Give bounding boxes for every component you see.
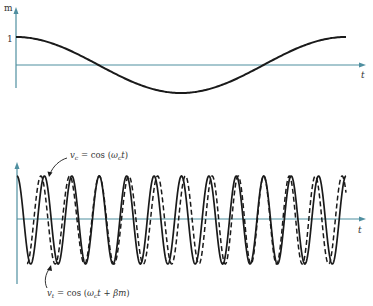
top-x-axis-label: t	[361, 70, 365, 80]
bottom-y-axis-arrow-icon	[15, 162, 20, 169]
carrier-leader-line	[50, 158, 67, 174]
modulated-equation-label: vt = cos (ωct + βm)	[47, 288, 130, 299]
phase-modulation-figure: m 1 t t vc = cos (ωct) vt = cos (ωct + β…	[0, 0, 373, 306]
bottom-x-axis-label: t	[358, 225, 362, 235]
carrier-leader-arrow-icon	[48, 172, 53, 178]
modulated-leader-arrow-icon	[47, 265, 52, 271]
tick-label-one: 1	[7, 34, 13, 44]
bottom-x-axis-arrow-icon	[359, 217, 366, 222]
figure-canvas: m 1 t t vc = cos (ωct) vt = cos (ωct + β…	[0, 0, 373, 306]
top-y-axis-label: m	[4, 3, 13, 13]
top-panel: m 1 t	[4, 3, 366, 93]
modulated-leader-line	[45, 268, 50, 288]
bottom-panel: t vc = cos (ωct) vt = cos (ωct + βm)	[15, 150, 367, 299]
top-y-axis-arrow-icon	[14, 7, 19, 14]
carrier-signal-curve	[17, 176, 346, 264]
top-x-axis-arrow-icon	[359, 63, 366, 68]
carrier-equation-label: vc = cos (ωct)	[70, 150, 128, 161]
